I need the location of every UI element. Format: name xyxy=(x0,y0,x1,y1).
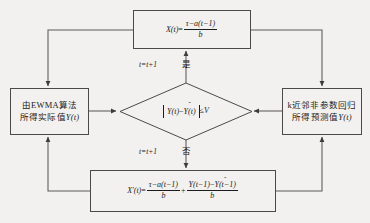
process-box-x-prime-update: X'(t)= τ−a(t−1) b + Y(t−1)−ˆY(t−1) b xyxy=(90,170,276,212)
decision-threshold: V xyxy=(204,106,209,115)
x-prime-plus: + xyxy=(181,186,186,195)
x-prime-term2-denominator: b xyxy=(187,190,238,201)
x-prime-hat-accent: ˆ xyxy=(214,176,235,183)
x-prime-term2-fraction: Y(t−1)−ˆY(t−1) b xyxy=(187,180,238,201)
x-update-numerator: τ−a(t−1) xyxy=(184,19,217,29)
edge-label-yes-counter: t=t+1 xyxy=(139,60,157,69)
ewma-box-text: 由EWMA算法 所得实际值Y(t) xyxy=(20,100,80,123)
edge-label-no: 否 xyxy=(182,144,191,156)
process-box-knn-predicted: k近邻非参数回归 所得预测值ˆY(t) xyxy=(282,88,362,135)
wire-bottom-to-right xyxy=(276,137,322,191)
ewma-line2-symbol: Y(t) xyxy=(66,112,80,122)
edge-label-yes: 是 xyxy=(182,57,191,69)
wire-top-to-left xyxy=(48,30,133,86)
formula-threshold-test: Y(t)−ˆY(t)≤V xyxy=(163,105,209,118)
decision-predicted-symbol-hatted: ˆY(t) xyxy=(184,105,196,118)
ewma-line1: 由EWMA算法 xyxy=(22,100,77,110)
x-prime-lhs: X'(t) xyxy=(127,186,141,195)
knn-line2-symbol-hatted: ˆY(t) xyxy=(338,112,352,123)
decision-node-threshold-test: Y(t)−ˆY(t)≤V xyxy=(128,96,244,126)
x-update-denominator: b xyxy=(184,29,217,40)
decision-predicted-symbol: Y(t) xyxy=(184,107,196,116)
wire-bottom-to-left xyxy=(48,137,90,191)
process-box-x-update: X(t)= τ−a(t−1) b xyxy=(133,10,251,49)
x-update-lhs: X(t) xyxy=(166,24,178,33)
x-update-equals: = xyxy=(178,24,183,33)
x-update-fraction: τ−a(t−1) b xyxy=(184,19,217,40)
flowchart-canvas: X(t)= τ−a(t−1) b 由EWMA算法 所得实际值Y(t) k近邻非参… xyxy=(0,0,370,223)
decision-actual-symbol: Y(t) xyxy=(167,107,179,116)
wire-top-to-right xyxy=(251,30,322,86)
x-prime-term2-numerator: Y(t−1)−ˆY(t−1) xyxy=(187,180,238,190)
process-box-ewma-actual: 由EWMA算法 所得实际值Y(t) xyxy=(10,88,89,135)
x-prime-term2-actual: Y(t−1) xyxy=(189,180,210,189)
edge-label-no-counter: t=t+1 xyxy=(139,147,157,156)
decision-hat-accent: ˆ xyxy=(184,101,196,108)
x-prime-term2-predicted-hatted: ˆY(t−1) xyxy=(214,180,235,190)
x-prime-term1-denominator: b xyxy=(147,190,180,201)
formula-x-update: X(t)= τ−a(t−1) b xyxy=(166,19,218,40)
x-prime-term1-numerator: τ−a(t−1) xyxy=(147,180,180,190)
x-prime-equals: = xyxy=(141,186,146,195)
knn-box-text: k近邻非参数回归 所得预测值ˆY(t) xyxy=(288,100,357,123)
knn-hat-accent: ˆ xyxy=(338,108,352,115)
formula-x-prime-update: X'(t)= τ−a(t−1) b + Y(t−1)−ˆY(t−1) b xyxy=(127,180,239,201)
absolute-value-group: Y(t)−ˆY(t) xyxy=(163,105,200,118)
ewma-line2-prefix: 所得实际值 xyxy=(20,112,66,122)
knn-line2-prefix: 所得预测值 xyxy=(292,112,338,122)
x-prime-term1-fraction: τ−a(t−1) b xyxy=(147,180,180,201)
